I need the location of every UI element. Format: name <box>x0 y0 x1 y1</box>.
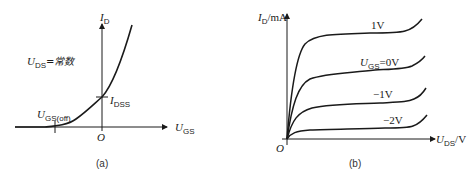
curve-minus-2v <box>287 115 427 139</box>
curve-label-minus-2v: −2V <box>383 114 403 126</box>
transfer-curve <box>15 25 132 127</box>
origin-label: O <box>276 142 284 154</box>
idss-label: IDSS <box>109 94 130 109</box>
pinch-off-label: UGS(off) <box>37 108 71 123</box>
panel-a: ID UGS O UDS=常数 IDSS UGS(off) (a) <box>15 11 195 169</box>
caption-b: (b) <box>349 158 361 169</box>
caption-a: (a) <box>96 158 108 169</box>
y-axis-label: ID <box>99 11 110 26</box>
condition-label: UDS=常数 <box>27 55 76 70</box>
curve-0v <box>287 56 425 139</box>
curve-label-minus-1v: −1V <box>373 88 393 100</box>
curve-label-1v: 1V <box>371 19 385 31</box>
x-axis-label: UDS/V <box>436 133 466 148</box>
y-axis-label: ID/mA <box>257 11 287 26</box>
x-axis-label: UGS <box>175 121 195 136</box>
origin-label: O <box>97 131 105 143</box>
panel-b: ID/mA UDS/V O 1V UGS=0V −1V −2V (b) <box>257 11 466 169</box>
figure: ID UGS O UDS=常数 IDSS UGS(off) (a) ID/mA … <box>0 0 469 179</box>
curve-minus-1v <box>287 88 426 139</box>
